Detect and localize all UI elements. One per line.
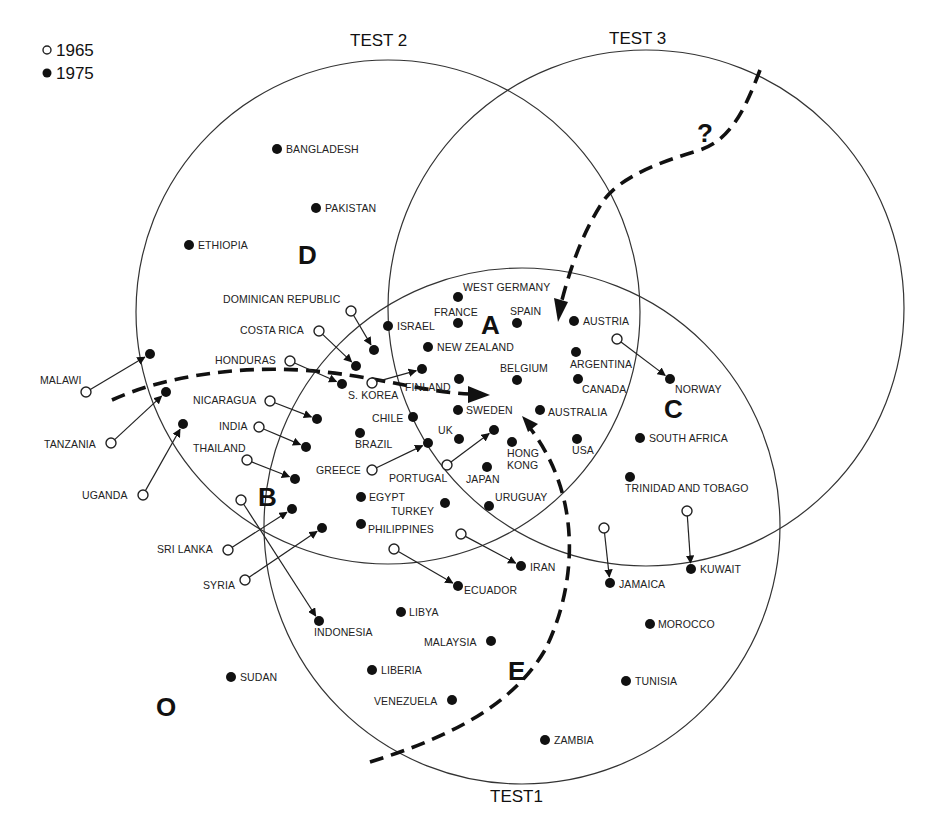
- position-1975-icon: [337, 379, 347, 389]
- position-1975-icon: [423, 438, 433, 448]
- country-label: ETHIOPIA: [198, 239, 248, 251]
- legend: 1965 1975: [43, 41, 94, 83]
- country-label: BRAZIL: [355, 438, 392, 450]
- position-1965-icon: [285, 356, 295, 366]
- country-zambia: ZAMBIA: [540, 734, 594, 746]
- position-1965-icon: [682, 506, 692, 516]
- country-label: LIBYA: [409, 606, 439, 618]
- country-morocco: MOROCCO: [645, 618, 715, 630]
- country-label: PAKISTAN: [325, 202, 376, 214]
- country-label: NEW ZEALAND: [437, 341, 514, 353]
- position-1965-icon: [456, 529, 466, 539]
- position-1965-icon: [265, 396, 275, 406]
- country-tanzania: TANZANIA: [44, 387, 171, 450]
- country-egypt: EGYPT: [356, 491, 406, 503]
- position-1975-icon: [184, 240, 194, 250]
- position-1975-icon: [625, 472, 635, 482]
- position-1975-icon: [178, 419, 188, 429]
- position-1975-icon: [383, 321, 393, 331]
- position-1975-icon: [417, 364, 427, 374]
- position-1975-icon: [686, 564, 696, 574]
- position-1975-icon: [312, 414, 322, 424]
- country-label: PORTUGAL: [389, 472, 447, 484]
- country-pakistan: PAKISTAN: [311, 202, 376, 214]
- country-label: JAPAN: [466, 473, 500, 485]
- country-label: KUWAIT: [700, 563, 742, 575]
- country-malaysia: MALAYSIA: [424, 636, 496, 648]
- position-1965-icon: [236, 495, 246, 505]
- country-label: BELGIUM: [500, 362, 548, 374]
- position-1975-icon: [356, 492, 366, 502]
- position-1975-icon: [454, 434, 464, 444]
- position-1975-icon: [287, 504, 297, 514]
- country-spain: SPAIN: [510, 305, 541, 328]
- position-1975-icon: [396, 607, 406, 617]
- position-1975-icon: [301, 442, 311, 452]
- position-1975-icon: [516, 561, 526, 571]
- dashed-paths: [112, 70, 760, 762]
- position-1965-icon: [254, 422, 264, 432]
- position-1975-icon: [367, 665, 377, 675]
- country-canada: CANADA: [573, 374, 626, 395]
- test-circles: TEST1TEST 2TEST 3: [136, 29, 904, 806]
- position-1975-icon: [454, 374, 464, 384]
- position-1975-icon: [482, 462, 492, 472]
- country-label: S. KOREA: [348, 389, 398, 401]
- country-label: NICARAGUA: [193, 394, 256, 406]
- region-label-o: O: [156, 692, 176, 722]
- test-label-test-2: TEST 2: [350, 31, 407, 50]
- position-1975-icon: [484, 501, 494, 511]
- position-1975-icon: [272, 144, 282, 154]
- country-philippines: PHILIPPINES: [356, 519, 434, 535]
- position-1975-icon: [572, 434, 582, 444]
- position-1965-icon: [599, 523, 609, 533]
- country-label: URUGUAY: [495, 491, 547, 503]
- position-1975-icon: [571, 347, 581, 357]
- test-label-test-3: TEST 3: [609, 29, 666, 48]
- country-label: CHILE: [372, 412, 403, 424]
- legend-1965-label: 1965: [56, 41, 94, 60]
- country-label: ECUADOR: [464, 584, 518, 596]
- country-nicaragua: NICARAGUA: [193, 394, 322, 424]
- country-label: EGYPT: [369, 491, 406, 503]
- country-israel: ISRAEL: [383, 320, 435, 332]
- region-label-c: C: [664, 394, 683, 424]
- position-1965-icon: [223, 545, 233, 555]
- position-1975-icon: [453, 318, 463, 328]
- country-label: MALAWI: [40, 374, 82, 386]
- position-1975-icon: [486, 636, 496, 646]
- country-label: MOROCCO: [658, 618, 715, 630]
- country-label: MALAYSIA: [424, 636, 477, 648]
- country-label: SUDAN: [240, 671, 277, 683]
- movement-arrow-icon: [275, 403, 312, 417]
- country-usa: USA: [572, 434, 594, 456]
- position-1965-icon: [612, 334, 622, 344]
- country-tunisia: TUNISIA: [621, 675, 677, 687]
- country-label: AUSTRIA: [583, 315, 629, 327]
- country-label: INDIA: [219, 420, 248, 432]
- movement-arrow-icon: [687, 516, 690, 563]
- movement-arrow-icon: [244, 504, 316, 616]
- country-label: FRANCE: [434, 306, 478, 318]
- legend-1975-label: 1975: [56, 64, 94, 83]
- movement-arrow-icon: [249, 531, 317, 577]
- country-label: SWEDEN: [466, 404, 513, 416]
- country-iran: IRAN: [456, 529, 556, 573]
- country-label: TURKEY: [391, 505, 434, 517]
- country-kuwait: KUWAIT: [682, 506, 742, 575]
- country-japan: JAPAN: [466, 462, 500, 485]
- country-australia: AUSTRALIA: [535, 405, 607, 418]
- position-1975-icon: [535, 405, 545, 415]
- country-bangladesh: BANGLADESH: [272, 143, 359, 155]
- position-1975-icon: [314, 616, 324, 626]
- country-label: SYRIA: [203, 579, 235, 591]
- country-hong-kong: HONGKONG: [507, 437, 539, 471]
- arrowhead-top-icon: [554, 298, 568, 322]
- country-west-germany: WEST GERMANY: [453, 281, 550, 302]
- country-indonesia: INDONESIA: [236, 495, 373, 638]
- static-countries: BANGLADESHPAKISTANETHIOPIAWEST GERMANYFR…: [184, 143, 748, 746]
- country-jamaica: JAMAICA: [599, 523, 665, 590]
- position-1975-icon: [356, 519, 366, 529]
- position-1975-icon: [665, 374, 675, 384]
- open-circle-icon: [43, 46, 51, 54]
